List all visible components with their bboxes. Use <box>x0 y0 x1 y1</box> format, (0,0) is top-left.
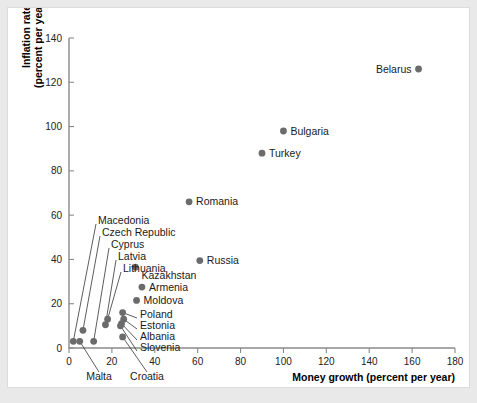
y-tick-label: 140 <box>45 33 62 44</box>
data-point-macedonia[interactable] <box>70 338 77 345</box>
x-tick-label: 180 <box>447 356 464 367</box>
data-point-armenia[interactable] <box>139 284 146 291</box>
scatter-plot: 020406080100120140160180 020406080100120… <box>8 8 469 387</box>
label-belarus: Belarus <box>376 63 412 75</box>
data-point-moldova[interactable] <box>133 297 140 304</box>
x-axis-title: Money growth (percent per year) <box>292 371 455 383</box>
data-point-russia[interactable] <box>196 257 203 264</box>
y-tick-label: 120 <box>45 77 62 88</box>
label-latvia: Latvia <box>118 250 146 262</box>
x-tick-label: 140 <box>361 356 378 367</box>
label-malta: Malta <box>86 370 112 382</box>
y-tick-label: 100 <box>45 121 62 132</box>
data-labels-group: BelarusBulgariaTurkeyRomaniaRussiaKazakh… <box>86 63 411 383</box>
data-point-romania[interactable] <box>186 198 193 205</box>
data-point-czech-republic[interactable] <box>80 327 87 334</box>
label-russia: Russia <box>207 254 239 266</box>
data-point-bulgaria[interactable] <box>280 128 287 135</box>
scatter-plot-svg: 020406080100120140160180 020406080100120… <box>8 8 469 387</box>
data-point-poland[interactable] <box>119 309 126 316</box>
x-tick-label: 100 <box>275 356 292 367</box>
label-slovenia: Slovenia <box>140 341 180 353</box>
leader-line-macedonia <box>73 224 96 341</box>
label-lithuania: Lithuania <box>123 262 166 274</box>
label-czech-republic: Czech Republic <box>102 226 176 238</box>
leader-line-lithuania <box>108 272 121 319</box>
y-tick-label: 0 <box>56 343 62 354</box>
y-tick-label: 60 <box>51 210 63 221</box>
x-tick-label: 20 <box>106 356 118 367</box>
axis-frame <box>69 38 455 348</box>
data-point-belarus[interactable] <box>415 66 422 73</box>
x-tick-label: 0 <box>66 356 72 367</box>
y-axis-title-line1: Inflation rate <box>20 8 32 68</box>
y-tick-label: 80 <box>51 165 63 176</box>
figure-panel: 020406080100120140160180 020406080100120… <box>8 8 469 387</box>
data-point-cyprus[interactable] <box>90 338 97 345</box>
x-tick-label: 120 <box>318 356 335 367</box>
x-tick-label: 40 <box>149 356 161 367</box>
x-tick-group: 020406080100120140160180 <box>66 348 464 367</box>
data-point-malta[interactable] <box>76 338 83 345</box>
label-croatia: Croatia <box>130 370 164 382</box>
label-armenia: Armenia <box>149 281 188 293</box>
label-macedonia: Macedonia <box>98 214 150 226</box>
data-point-slovenia[interactable] <box>117 322 124 329</box>
data-point-lithuania[interactable] <box>104 316 111 323</box>
leader-line-latvia <box>105 260 116 325</box>
label-moldova: Moldova <box>144 294 184 306</box>
axes-group <box>69 38 455 348</box>
data-points-group <box>70 66 422 345</box>
y-tick-label: 20 <box>51 298 63 309</box>
label-turkey: Turkey <box>269 147 301 159</box>
y-tick-label: 40 <box>51 254 63 265</box>
label-romania: Romania <box>196 195 238 207</box>
leader-line-malta <box>80 341 99 372</box>
data-point-turkey[interactable] <box>259 150 266 157</box>
x-tick-label: 80 <box>235 356 247 367</box>
data-point-croatia[interactable] <box>119 334 126 341</box>
label-cyprus: Cyprus <box>111 238 144 250</box>
y-axis-title-line2: (percent per year) <box>32 8 44 88</box>
x-tick-label: 60 <box>192 356 204 367</box>
x-tick-label: 160 <box>404 356 421 367</box>
label-bulgaria: Bulgaria <box>290 125 329 137</box>
